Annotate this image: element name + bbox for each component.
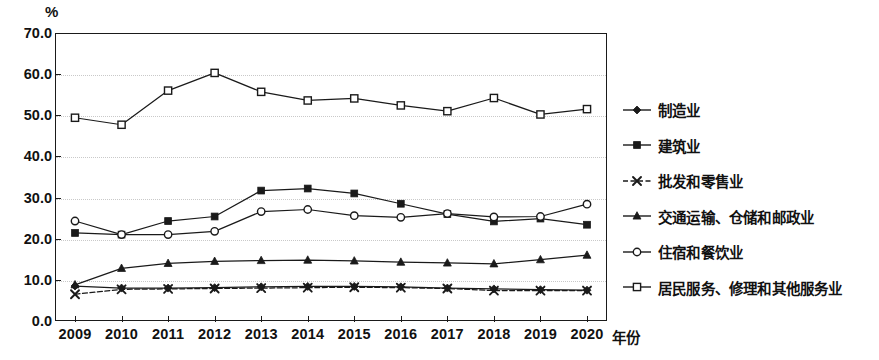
data-point-marker [165, 218, 172, 225]
x-axis-title: 年份 [612, 326, 640, 347]
x-axis-tick-label: 2013 [245, 326, 278, 342]
data-point-marker [633, 284, 640, 291]
legend-label: 建筑业 [658, 135, 701, 156]
data-point-marker [118, 231, 125, 238]
data-point-marker [444, 210, 451, 217]
legend-item[interactable]: 住宿和餐饮业 [622, 234, 874, 270]
data-point-marker [397, 102, 404, 109]
y-axis-tick-label: 50.0 [2, 107, 52, 123]
y-axis-tick-label: 0.0 [2, 313, 52, 329]
data-point-marker [164, 231, 171, 238]
y-axis-tick-label: 10.0 [2, 272, 52, 288]
data-point-marker [583, 106, 590, 113]
data-point-marker [397, 200, 404, 207]
legend-marker-icon [622, 243, 652, 261]
data-point-marker [490, 213, 497, 220]
data-point-marker [583, 200, 590, 207]
x-axis-tick-label: 2019 [524, 326, 557, 342]
y-axis-tick-label: 40.0 [2, 148, 52, 164]
series-triangle-filled [71, 251, 591, 288]
y-axis-unit-label: % [45, 3, 59, 20]
data-point-marker [71, 217, 78, 224]
legend-marker-icon [622, 278, 652, 296]
x-axis-tick-label: 2015 [338, 326, 371, 342]
data-point-marker [304, 97, 311, 104]
x-axis-tick-labels: 2009201020112012201320142015201620172018… [55, 326, 607, 352]
data-point-marker [72, 230, 79, 237]
data-point-marker [584, 221, 591, 228]
legend-item[interactable]: 居民服务、修理和其他服务业 [622, 270, 874, 306]
data-point-marker [258, 187, 265, 194]
x-axis-tick-label: 2012 [198, 326, 231, 342]
legend-label: 住宿和餐饮业 [658, 241, 743, 262]
series-square-filled [72, 185, 591, 238]
x-axis-tick-label: 2010 [105, 326, 138, 342]
legend-marker-icon [622, 207, 652, 225]
data-point-marker [633, 248, 640, 255]
series-circle-open [71, 200, 590, 238]
data-point-marker [397, 214, 404, 221]
data-point-marker [304, 256, 312, 263]
data-point-marker [583, 251, 591, 258]
x-axis-tick-label: 2018 [477, 326, 510, 342]
data-point-marker [71, 114, 78, 121]
legend-item[interactable]: 批发和零售业 [622, 163, 874, 199]
y-axis-tick-label: 70.0 [2, 25, 52, 41]
legend-label: 交通运输、仓储和邮政业 [658, 206, 814, 227]
data-point-marker [118, 121, 125, 128]
data-point-marker [304, 206, 311, 213]
x-axis-tick-label: 2016 [384, 326, 417, 342]
data-point-marker [490, 94, 497, 101]
series-x [71, 283, 591, 298]
legend: 制造业建筑业批发和零售业交通运输、仓储和邮政业住宿和餐饮业居民服务、修理和其他服… [622, 92, 874, 305]
data-point-marker [211, 69, 218, 76]
legend-label: 制造业 [658, 99, 701, 120]
data-point-marker [351, 95, 358, 102]
data-point-marker [257, 208, 264, 215]
data-point-marker [537, 213, 544, 220]
y-axis-tick-label: 60.0 [2, 66, 52, 82]
legend-marker-icon [622, 101, 652, 119]
legend-marker-icon [622, 172, 652, 190]
data-point-marker [351, 190, 358, 197]
x-axis-tick-label: 2020 [570, 326, 603, 342]
data-point-marker [537, 111, 544, 118]
data-point-marker [258, 88, 265, 95]
data-point-marker [634, 142, 641, 149]
x-axis-tick-label: 2011 [152, 326, 184, 342]
series-square-open [71, 69, 590, 128]
y-axis-tick-label: 20.0 [2, 231, 52, 247]
legend-marker-icon [622, 136, 652, 154]
x-axis-tick-label: 2014 [291, 326, 324, 342]
x-axis-tick-label: 2017 [431, 326, 464, 342]
data-point-marker [211, 228, 218, 235]
data-point-marker [444, 108, 451, 115]
y-axis-tick-labels: 0.010.020.030.040.050.060.070.0 [0, 33, 52, 321]
series-layer [55, 33, 607, 321]
line-chart: % 0.010.020.030.040.050.060.070.0 200920… [0, 0, 879, 360]
x-axis-tick-label: 2009 [58, 326, 91, 342]
legend-item[interactable]: 制造业 [622, 92, 874, 128]
data-point-marker [351, 212, 358, 219]
data-point-marker [211, 213, 218, 220]
data-point-marker [633, 106, 641, 114]
legend-label: 批发和零售业 [658, 170, 743, 191]
y-axis-tick-label: 30.0 [2, 190, 52, 206]
data-point-marker [164, 87, 171, 94]
data-point-marker [304, 185, 311, 192]
legend-item[interactable]: 建筑业 [622, 128, 874, 164]
legend-item[interactable]: 交通运输、仓储和邮政业 [622, 199, 874, 235]
legend-label: 居民服务、修理和其他服务业 [658, 277, 843, 298]
